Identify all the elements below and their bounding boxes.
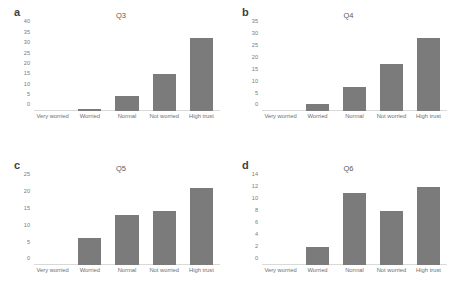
- bar: [343, 193, 366, 265]
- y-tick-label: 20: [24, 61, 34, 67]
- bar-series-q6: [262, 181, 447, 265]
- panel-c: c Q5 0510152025 Very worriedWorriedNorma…: [0, 153, 228, 307]
- bar-slot: [336, 181, 373, 265]
- bar: [306, 104, 329, 111]
- y-tick-label: 8: [255, 209, 262, 215]
- y-tick-label: 12: [252, 185, 262, 191]
- y-tick-label: 0: [27, 103, 34, 109]
- plot-area-q4: 05101520253035: [262, 28, 447, 111]
- x-tick-label: Very worried: [34, 267, 71, 297]
- x-tick-label: High trust: [183, 113, 220, 143]
- bar: [343, 87, 366, 111]
- x-tick-label: Worried: [299, 267, 336, 297]
- x-tick-label: Not worried: [373, 113, 410, 143]
- y-tick-label: 10: [24, 82, 34, 88]
- y-tick-label: 5: [27, 92, 34, 98]
- y-tick-label: 0: [255, 257, 262, 263]
- bar: [115, 96, 138, 111]
- y-tick-label: 30: [252, 31, 262, 37]
- bar-slot: [108, 181, 145, 265]
- x-tick-label: Very worried: [34, 113, 71, 143]
- y-tick-label: 10: [252, 79, 262, 85]
- bar-slot: [262, 28, 299, 111]
- bar-slot: [71, 181, 108, 265]
- y-tick-label: 15: [252, 67, 262, 73]
- bar-series-q4: [262, 28, 447, 111]
- bar-slot: [336, 28, 373, 111]
- y-tick-label: 15: [24, 71, 34, 77]
- plot-area-q6: 02468101214: [262, 181, 447, 265]
- plot-area-q5: 0510152025: [34, 181, 220, 265]
- bar: [115, 215, 138, 265]
- y-tick-label: 25: [252, 43, 262, 49]
- x-tick-label: High trust: [410, 267, 447, 297]
- bar: [78, 109, 101, 111]
- y-tick-label: 0: [255, 103, 262, 109]
- y-tick-label: 25: [24, 173, 34, 179]
- panel-d: d Q6 02468101214 Very worriedWorriedNorm…: [228, 153, 455, 307]
- x-tick-label: Not worried: [146, 113, 183, 143]
- x-axis-labels-q6: Very worriedWorriedNormalNot worriedHigh…: [262, 267, 447, 297]
- bar-series-q5: [34, 181, 220, 265]
- y-tick-label: 2: [255, 245, 262, 251]
- y-tick-label: 10: [24, 223, 34, 229]
- bar-slot: [183, 28, 220, 111]
- y-tick-label: 0: [27, 257, 34, 263]
- x-tick-label: Normal: [336, 267, 373, 297]
- bar: [153, 74, 176, 111]
- y-tick-label: 30: [24, 40, 34, 46]
- x-tick-label: Very worried: [262, 267, 299, 297]
- panel-title-q6: Q6: [228, 164, 455, 173]
- y-tick-label: 40: [24, 20, 34, 26]
- panel-a: a Q3 0510152025303540 Very worriedWorrie…: [0, 0, 228, 153]
- bar: [380, 64, 403, 111]
- x-tick-label: Very worried: [262, 113, 299, 143]
- y-tick-label: 14: [252, 173, 262, 179]
- bar-series-q3: [34, 28, 220, 111]
- bar-slot: [183, 181, 220, 265]
- plot-area-q3: 0510152025303540: [34, 28, 220, 111]
- bar: [417, 187, 440, 265]
- x-tick-label: Not worried: [146, 267, 183, 297]
- bar: [153, 211, 176, 265]
- x-tick-label: Normal: [108, 267, 145, 297]
- x-tick-label: Normal: [108, 113, 145, 143]
- y-tick-label: 35: [252, 20, 262, 26]
- bar-slot: [373, 28, 410, 111]
- y-tick-label: 15: [24, 206, 34, 212]
- y-tick-label: 20: [252, 55, 262, 61]
- x-axis-labels-q5: Very worriedWorriedNormalNot worriedHigh…: [34, 267, 220, 297]
- y-tick-label: 35: [24, 30, 34, 36]
- figure-grid: a Q3 0510152025303540 Very worriedWorrie…: [0, 0, 455, 307]
- bar-slot: [299, 28, 336, 111]
- x-tick-label: Normal: [336, 113, 373, 143]
- y-tick-label: 5: [27, 240, 34, 246]
- x-axis-labels-q4: Very worriedWorriedNormalNot worriedHigh…: [262, 113, 447, 143]
- panel-title-q5: Q5: [0, 164, 228, 173]
- y-tick-label: 5: [255, 91, 262, 97]
- x-tick-label: Worried: [299, 113, 336, 143]
- x-tick-label: High trust: [410, 113, 447, 143]
- bar-slot: [299, 181, 336, 265]
- x-tick-label: High trust: [183, 267, 220, 297]
- bar-slot: [146, 181, 183, 265]
- x-tick-label: Worried: [71, 267, 108, 297]
- bar-slot: [34, 181, 71, 265]
- bar: [190, 38, 213, 111]
- panel-title-q3: Q3: [0, 11, 228, 20]
- bar-slot: [71, 28, 108, 111]
- panel-title-q4: Q4: [228, 11, 455, 20]
- panel-b: b Q4 05101520253035 Very worriedWorriedN…: [228, 0, 455, 153]
- bar: [78, 238, 101, 265]
- bar-slot: [34, 28, 71, 111]
- bar: [306, 247, 329, 265]
- y-tick-label: 20: [24, 189, 34, 195]
- y-tick-label: 4: [255, 233, 262, 239]
- bar-slot: [410, 28, 447, 111]
- y-tick-label: 25: [24, 51, 34, 57]
- x-tick-label: Not worried: [373, 267, 410, 297]
- x-tick-label: Worried: [71, 113, 108, 143]
- y-tick-label: 10: [252, 197, 262, 203]
- bar: [190, 188, 213, 265]
- y-tick-label: 6: [255, 221, 262, 227]
